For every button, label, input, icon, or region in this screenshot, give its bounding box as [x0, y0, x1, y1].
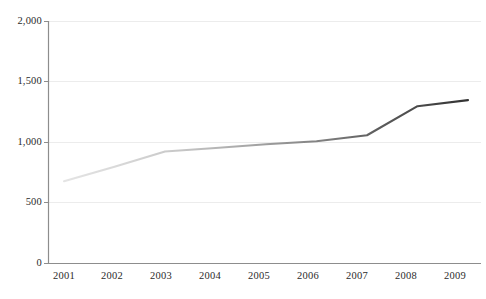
xtick-label-2006: 2006 — [286, 270, 330, 281]
xtick-label-2003: 2003 — [139, 270, 183, 281]
data-series-line — [64, 100, 468, 181]
xtick-label-2005: 2005 — [237, 270, 281, 281]
series-polyline — [64, 100, 468, 181]
xtick-label-2009: 2009 — [433, 270, 477, 281]
xtick-label-2004: 2004 — [188, 270, 232, 281]
xtick-label-2008: 2008 — [384, 270, 428, 281]
plot-area — [0, 0, 486, 299]
y-axis-ticks — [44, 22, 48, 264]
xtick-label-2007: 2007 — [335, 270, 379, 281]
ytick-label-1500: 1,500 — [2, 75, 42, 86]
xtick-label-2002: 2002 — [90, 270, 134, 281]
gridlines — [48, 22, 481, 203]
ytick-label-2000: 2,000 — [2, 15, 42, 26]
ytick-label-0: 0 — [2, 257, 42, 268]
line-chart: 2,000 1,500 1,000 500 0 2001 2002 2003 2… — [0, 0, 486, 299]
ytick-label-1000: 1,000 — [2, 136, 42, 147]
ytick-label-500: 500 — [2, 196, 42, 207]
xtick-label-2001: 2001 — [42, 270, 86, 281]
